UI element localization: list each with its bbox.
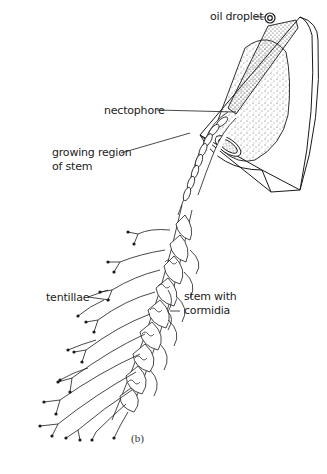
label-stem-cormidia-line2: cormidia <box>184 304 230 317</box>
label-growing-region-line1: growing region <box>52 146 132 159</box>
figure-canvas: oil droplet nectophore growing region of… <box>0 0 327 474</box>
label-tentillae: tentillae <box>46 291 89 304</box>
figure-caption: (b) <box>131 432 144 444</box>
label-stem-cormidia-line1: stem with <box>184 290 237 303</box>
oil-droplet <box>265 13 275 23</box>
tentillae-tips <box>38 230 135 441</box>
label-nectophore: nectophore <box>104 104 165 117</box>
label-oil-droplet: oil droplet <box>210 10 263 23</box>
siphonophore-drawing <box>0 0 327 474</box>
label-growing-region-line2: of stem <box>52 160 92 173</box>
